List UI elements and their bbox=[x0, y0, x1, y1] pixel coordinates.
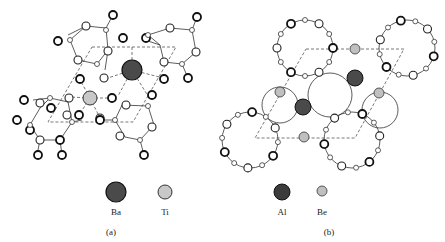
ring-atom bbox=[432, 39, 437, 44]
ring-atom bbox=[287, 20, 295, 28]
ba-atom bbox=[122, 60, 142, 80]
ring-atom bbox=[221, 148, 229, 156]
ring-atom bbox=[260, 163, 265, 168]
ring-atom bbox=[331, 114, 339, 122]
panel-b-caption: (b) bbox=[324, 227, 335, 237]
ring-atom bbox=[220, 135, 225, 140]
ring-atom bbox=[275, 140, 280, 145]
legend-be-label: Be bbox=[317, 207, 327, 217]
silicon-atoms-a bbox=[28, 28, 195, 143]
legend-al-swatch bbox=[274, 184, 290, 200]
panel-b-structure bbox=[220, 17, 438, 172]
be-atom-1 bbox=[350, 44, 360, 54]
legend-be-swatch bbox=[317, 186, 327, 196]
ring-atom bbox=[413, 19, 418, 24]
ring-atom bbox=[232, 161, 237, 166]
ring-atom bbox=[424, 25, 432, 33]
ring-atom bbox=[315, 20, 323, 28]
ring-atom bbox=[278, 32, 283, 37]
ring-atom bbox=[365, 158, 373, 166]
panel-a-structure bbox=[13, 11, 201, 159]
ring-atom bbox=[409, 71, 417, 79]
ring-atom bbox=[269, 152, 277, 160]
ring-atom bbox=[376, 132, 384, 140]
legend-ba-swatch bbox=[106, 182, 126, 202]
ring-atom bbox=[303, 74, 308, 79]
al-atom-1 bbox=[347, 70, 363, 86]
ring-atom bbox=[397, 17, 405, 25]
panel-a-caption: (a) bbox=[106, 227, 116, 237]
ring-atom bbox=[320, 140, 328, 148]
legend-b: Al Be (b) bbox=[274, 184, 334, 237]
be-atom-4 bbox=[299, 132, 309, 142]
ring-atom bbox=[248, 108, 256, 116]
ring-atom bbox=[223, 120, 231, 128]
ring-atom bbox=[345, 110, 350, 115]
legend-ti-swatch bbox=[158, 185, 172, 199]
legend-a: Ba Ti (a) bbox=[106, 182, 172, 237]
ring-atom bbox=[278, 60, 283, 65]
ring-atom bbox=[354, 165, 359, 170]
ring-atom bbox=[396, 72, 401, 77]
ring-atom bbox=[376, 36, 384, 44]
ring-atom bbox=[430, 52, 438, 60]
ring-atom bbox=[383, 63, 391, 71]
ring-atom bbox=[244, 164, 252, 172]
ring-atom bbox=[358, 110, 366, 118]
ring-atom bbox=[303, 18, 308, 23]
ring-atom bbox=[377, 52, 382, 57]
ring-atom bbox=[271, 124, 279, 132]
be-atom-2 bbox=[275, 87, 285, 97]
ring-atom bbox=[327, 32, 332, 37]
ti-atom bbox=[83, 91, 97, 105]
ring-atom bbox=[287, 68, 295, 76]
ring-atom bbox=[235, 112, 240, 117]
legend-ba-label: Ba bbox=[111, 207, 121, 217]
bonds-a bbox=[30, 15, 197, 155]
ring-atom bbox=[273, 44, 281, 52]
legend-al-label: Al bbox=[278, 207, 287, 217]
ring-atom bbox=[386, 25, 391, 30]
ring-atom bbox=[328, 155, 333, 160]
ring-atom bbox=[263, 114, 268, 119]
be-atom-3 bbox=[374, 88, 384, 98]
ring-atom bbox=[324, 127, 329, 132]
ring-atom bbox=[338, 162, 346, 170]
ring-atom bbox=[371, 120, 376, 125]
al-atom-2 bbox=[295, 99, 311, 115]
ring-atom bbox=[315, 68, 323, 76]
ring-atom bbox=[329, 44, 337, 52]
ring-atom bbox=[424, 66, 429, 71]
crystal-structure-figure: Ba Ti (a) Al Be (b) bbox=[0, 0, 445, 242]
ring-atoms-b bbox=[220, 17, 438, 172]
ring-atom bbox=[327, 60, 332, 65]
ring-atom bbox=[376, 148, 381, 153]
legend-ti-label: Ti bbox=[161, 207, 169, 217]
